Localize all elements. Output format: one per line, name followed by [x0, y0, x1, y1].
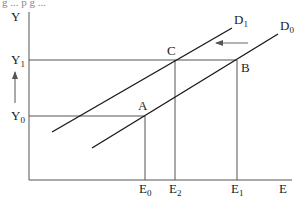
x-axis-label: E [279, 181, 287, 196]
point-c-label: C [167, 43, 176, 58]
e0-tick-label: E0 [139, 181, 152, 198]
y1-tick-label: Y1 [11, 52, 25, 69]
y-axis-label: Y [11, 9, 21, 24]
d0-label: D0 [280, 18, 294, 35]
e2-tick-label: E2 [169, 181, 181, 198]
diagram-canvas: g ... p g ... Y E D1 D0 A B C Y1 Y0 E0 E… [0, 0, 303, 208]
point-a-label: A [138, 98, 148, 113]
y0-tick-label: Y0 [11, 108, 25, 125]
e1-tick-label: E1 [231, 181, 243, 198]
point-b-label: B [241, 60, 250, 75]
d1-label: D1 [234, 12, 248, 29]
cropped-caption-text: g ... p g ... [2, 0, 46, 8]
d0-curve [92, 34, 278, 148]
